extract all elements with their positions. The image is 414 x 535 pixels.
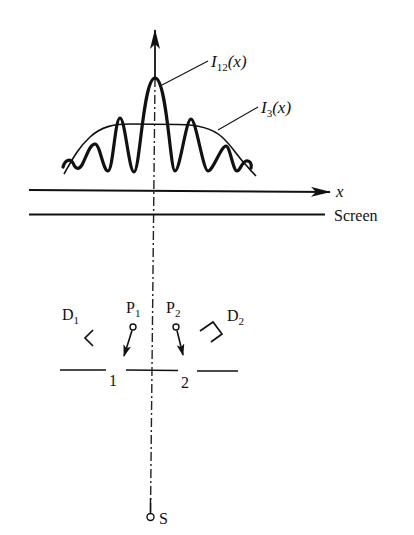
detector-2-label: D2 bbox=[227, 307, 244, 327]
probe-1-icon bbox=[130, 324, 136, 330]
slit-1-label: 1 bbox=[109, 372, 117, 389]
probe-2-icon bbox=[173, 324, 179, 330]
screen-label: Screen bbox=[334, 207, 378, 224]
source-label: S bbox=[159, 510, 168, 527]
x-axis-label: x bbox=[335, 182, 344, 201]
probe-2-label: P2 bbox=[166, 299, 180, 319]
label-I12: I12(x) bbox=[210, 52, 247, 73]
barrier-middle bbox=[126, 370, 178, 371]
slit-2-label: 2 bbox=[181, 374, 189, 391]
leader-I12 bbox=[162, 61, 208, 85]
detector-1-label: D1 bbox=[62, 306, 79, 326]
source-icon bbox=[147, 514, 154, 521]
x-axis bbox=[29, 190, 330, 192]
detector-2-icon bbox=[200, 322, 222, 342]
detector-1-icon bbox=[85, 330, 93, 346]
symmetry-axis bbox=[151, 80, 156, 512]
interference-diagram: I12(x) I3(x) x Screen 1 2 D1 D2 P1 P2 S bbox=[0, 0, 414, 535]
label-I3: I3(x) bbox=[260, 98, 291, 119]
probe-1-label: P1 bbox=[126, 299, 140, 319]
leader-I3 bbox=[218, 107, 258, 130]
probe-2-arrow bbox=[177, 331, 183, 356]
probe-1-arrow bbox=[124, 331, 132, 357]
curve-I3 bbox=[64, 124, 256, 176]
